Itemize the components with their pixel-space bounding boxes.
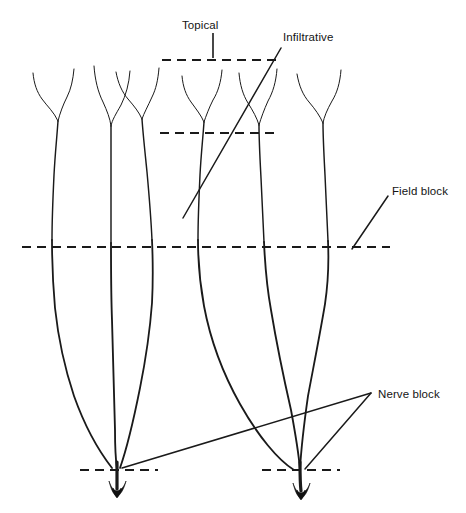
nerve-trunk-right — [293, 462, 310, 500]
nerve-branch-l1 — [33, 69, 112, 468]
nerve-branch-l3 — [116, 68, 159, 468]
nerve-branch-r1 — [182, 70, 294, 470]
nerve-block-leader-left — [122, 393, 371, 468]
label-infiltrative: Infiltrative — [283, 31, 333, 44]
field-block-leader — [352, 196, 388, 249]
label-topical: Topical — [182, 19, 219, 32]
diagram-canvas — [0, 0, 466, 513]
label-field-block: Field block — [392, 185, 448, 198]
left-nerve-group — [33, 66, 159, 498]
nerve-branch-l2 — [94, 66, 130, 469]
label-leader-lines — [122, 33, 388, 469]
nerve-block-levels-diagram: Topical Infiltrative Field block Nerve b… — [0, 0, 466, 513]
nerve-block-leader-right — [305, 393, 371, 469]
label-nerve-block: Nerve block — [378, 388, 440, 401]
nerve-branch-r2 — [239, 69, 300, 469]
block-level-lines — [22, 60, 390, 470]
